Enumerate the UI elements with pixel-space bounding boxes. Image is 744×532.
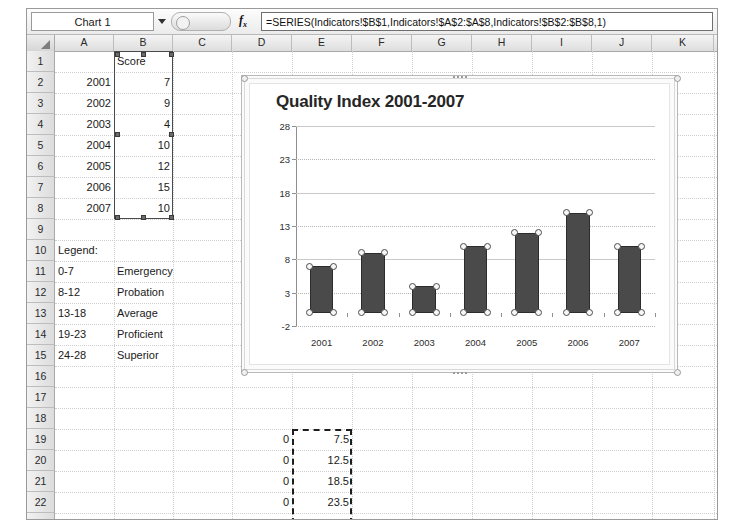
- row-header-6[interactable]: 6: [27, 156, 55, 177]
- column-header-b[interactable]: B: [114, 35, 173, 51]
- row-header-9[interactable]: 9: [27, 219, 55, 240]
- chart-resize-handle[interactable]: [452, 371, 468, 375]
- cell-E21[interactable]: 18.5: [292, 471, 352, 492]
- chart-resize-handle[interactable]: [241, 369, 248, 376]
- cell-A6[interactable]: 2005: [55, 156, 114, 177]
- row-header-16[interactable]: 16: [27, 366, 55, 387]
- cell-A3[interactable]: 2002: [55, 93, 114, 114]
- row-header-19[interactable]: 19: [27, 429, 55, 450]
- column-header-j[interactable]: J: [592, 35, 652, 51]
- chart-resize-handle[interactable]: [674, 75, 681, 82]
- data-point-handle[interactable]: [614, 309, 621, 316]
- cell-E23[interactable]: 28: [292, 513, 352, 519]
- data-point-handle[interactable]: [306, 309, 313, 316]
- row-header-1[interactable]: 1: [27, 51, 55, 72]
- column-header-e[interactable]: E: [292, 35, 352, 51]
- cell-E19[interactable]: 7.5: [292, 429, 352, 450]
- row-header-11[interactable]: 11: [27, 261, 55, 282]
- cell-B7[interactable]: 15: [114, 177, 173, 198]
- row-header-5[interactable]: 5: [27, 135, 55, 156]
- cell-B12[interactable]: Probation: [114, 282, 173, 303]
- worksheet-grid[interactable]: ABCDEFGHIJK 1234567891011121314151617181…: [27, 35, 717, 519]
- data-point-handle[interactable]: [381, 249, 388, 256]
- row-header-3[interactable]: 3: [27, 93, 55, 114]
- cell-B8[interactable]: 10: [114, 198, 173, 219]
- row-header-14[interactable]: 14: [27, 324, 55, 345]
- cell-B2[interactable]: 7: [114, 72, 173, 93]
- row-header-15[interactable]: 15: [27, 345, 55, 366]
- cell-B14[interactable]: Proficient: [114, 324, 173, 345]
- row-header-2[interactable]: 2: [27, 72, 55, 93]
- row-header-7[interactable]: 7: [27, 177, 55, 198]
- cell-D20[interactable]: 0: [232, 450, 292, 471]
- data-point-handle[interactable]: [563, 209, 570, 216]
- row-header-23[interactable]: 23: [27, 513, 55, 519]
- column-header-d[interactable]: D: [232, 35, 292, 51]
- name-box[interactable]: Chart 1: [31, 12, 154, 31]
- row-header-4[interactable]: 4: [27, 114, 55, 135]
- data-point-handle[interactable]: [409, 283, 416, 290]
- column-header-c[interactable]: C: [173, 35, 232, 51]
- data-point-handle[interactable]: [460, 243, 467, 250]
- data-point-handle[interactable]: [433, 283, 440, 290]
- cell-A10[interactable]: Legend:: [55, 240, 114, 261]
- data-point-handle[interactable]: [358, 309, 365, 316]
- chart-bar[interactable]: [464, 246, 488, 313]
- data-point-handle[interactable]: [484, 309, 491, 316]
- cell-B1[interactable]: Score: [114, 51, 173, 72]
- chart-bar[interactable]: [515, 233, 539, 313]
- data-point-handle[interactable]: [358, 249, 365, 256]
- data-point-handle[interactable]: [330, 263, 337, 270]
- chart-resize-handle[interactable]: [674, 369, 681, 376]
- cell-B5[interactable]: 10: [114, 135, 173, 156]
- cell-A15[interactable]: 24-28: [55, 345, 114, 366]
- insert-function-icon[interactable]: fx: [239, 13, 247, 29]
- column-header-a[interactable]: A: [55, 35, 114, 51]
- row-header-10[interactable]: 10: [27, 240, 55, 261]
- cell-B13[interactable]: Average: [114, 303, 173, 324]
- data-point-handle[interactable]: [614, 243, 621, 250]
- cell-A7[interactable]: 2006: [55, 177, 114, 198]
- chart-bar[interactable]: [566, 213, 590, 313]
- cell-B3[interactable]: 9: [114, 93, 173, 114]
- cell-A2[interactable]: 2001: [55, 72, 114, 93]
- data-point-handle[interactable]: [409, 309, 416, 316]
- chart-bar[interactable]: [310, 266, 334, 313]
- cell-A5[interactable]: 2004: [55, 135, 114, 156]
- column-header-f[interactable]: F: [352, 35, 412, 51]
- cell-A11[interactable]: 0-7: [55, 261, 114, 282]
- cell-B4[interactable]: 4: [114, 114, 173, 135]
- cell-D21[interactable]: 0: [232, 471, 292, 492]
- data-point-handle[interactable]: [306, 263, 313, 270]
- cell-A14[interactable]: 19-23: [55, 324, 114, 345]
- data-point-handle[interactable]: [535, 229, 542, 236]
- data-point-handle[interactable]: [638, 309, 645, 316]
- cell-D23[interactable]: 0: [232, 513, 292, 519]
- data-point-handle[interactable]: [460, 309, 467, 316]
- data-point-handle[interactable]: [535, 309, 542, 316]
- formula-bar-buttons[interactable]: [171, 12, 231, 31]
- data-point-handle[interactable]: [511, 309, 518, 316]
- data-point-handle[interactable]: [381, 309, 388, 316]
- column-header-h[interactable]: H: [472, 35, 532, 51]
- row-header-20[interactable]: 20: [27, 450, 55, 471]
- cell-D22[interactable]: 0: [232, 492, 292, 513]
- cell-A4[interactable]: 2003: [55, 114, 114, 135]
- cell-B11[interactable]: Emergency: [114, 261, 173, 282]
- cell-E22[interactable]: 23.5: [292, 492, 352, 513]
- name-box-dropdown-icon[interactable]: [158, 19, 166, 24]
- row-header-17[interactable]: 17: [27, 387, 55, 408]
- data-point-handle[interactable]: [586, 209, 593, 216]
- data-point-handle[interactable]: [586, 309, 593, 316]
- cell-B15[interactable]: Superior: [114, 345, 173, 366]
- column-header-i[interactable]: I: [532, 35, 592, 51]
- chart-resize-handle[interactable]: [452, 75, 468, 79]
- row-header-8[interactable]: 8: [27, 198, 55, 219]
- data-point-handle[interactable]: [563, 309, 570, 316]
- data-point-handle[interactable]: [433, 309, 440, 316]
- data-point-handle[interactable]: [638, 243, 645, 250]
- chart-bar[interactable]: [361, 253, 385, 313]
- row-header-21[interactable]: 21: [27, 471, 55, 492]
- formula-input[interactable]: =SERIES(Indicators!$B$1,Indicators!$A$2:…: [261, 12, 713, 31]
- cell-A12[interactable]: 8-12: [55, 282, 114, 303]
